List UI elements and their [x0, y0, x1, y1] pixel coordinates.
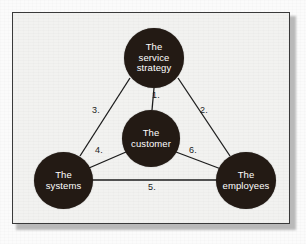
edge-label-1: 1. — [152, 90, 160, 100]
edge-label-2: 2. — [200, 105, 208, 115]
node-systems-line-1: The — [55, 170, 72, 181]
node-employees-line-2: employees — [223, 181, 270, 192]
node-customer-line-1: The — [143, 128, 160, 139]
node-customer[interactable]: The customer — [122, 110, 180, 167]
figure-root: The service strategy The customer The sy… — [0, 0, 306, 244]
edge-label-4: 4. — [95, 145, 103, 155]
node-customer-line-2: customer — [131, 139, 171, 150]
node-service-strategy-line-3: strategy — [137, 63, 172, 74]
node-systems[interactable]: The systems — [34, 152, 93, 209]
node-employees[interactable]: The employees — [216, 152, 276, 209]
node-employees-line-1: The — [238, 170, 255, 181]
node-service-strategy[interactable]: The service strategy — [124, 28, 184, 88]
node-systems-line-2: systems — [46, 181, 82, 192]
edge-label-6: 6. — [189, 145, 197, 155]
edge-label-3: 3. — [92, 105, 100, 115]
edge-label-5: 5. — [148, 182, 156, 192]
